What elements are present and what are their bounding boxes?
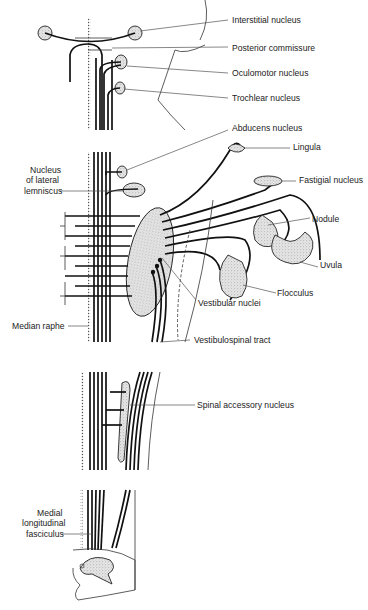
lower-cord-section: Medial longitudinal fasciculus — [22, 490, 135, 600]
label-nucleus-lateral-lemniscus-3: lemniscus — [24, 186, 62, 196]
median-raphe-top — [88, 18, 91, 130]
upper-cord-section: Spinal accessory nucleus — [81, 372, 294, 470]
label-nodule: Nodule — [312, 214, 339, 224]
label-posterior-commissure: Posterior commissure — [232, 43, 315, 53]
mlf-diagram: Interstitial nucleus Posterior commissur… — [0, 0, 368, 610]
label-flocculus: Flocculus — [277, 288, 313, 298]
vestibular-nuclei — [119, 204, 181, 320]
label-lingula: Lingula — [293, 142, 321, 152]
label-abducens-nucleus: Abducens nucleus — [232, 123, 302, 133]
lingula — [228, 144, 245, 152]
label-nucleus-lateral-lemniscus-1: Nucleus — [30, 165, 61, 175]
spinal-accessory-nucleus — [118, 382, 130, 463]
label-spinal-accessory-nucleus: Spinal accessory nucleus — [197, 400, 294, 410]
pons-medulla-section: Abducens nucleus Lingula Fastigial nucle… — [12, 123, 363, 345]
label-uvula: Uvula — [320, 260, 342, 270]
flocculus — [220, 255, 247, 298]
label-vestibular-nuclei: Vestibular nuclei — [198, 298, 261, 308]
label-fastigial-nucleus: Fastigial nucleus — [299, 175, 363, 185]
label-vestibulospinal-tract: Vestibulospinal tract — [194, 335, 271, 345]
label-mlf-2: longitudinal — [22, 518, 66, 528]
label-mlf-1: Medial — [37, 508, 62, 518]
label-nucleus-lateral-lemniscus-2: of lateral — [26, 175, 59, 185]
midbrain-section: Interstitial nucleus Posterior commissur… — [38, 0, 315, 130]
label-median-raphe: Median raphe — [12, 321, 65, 331]
label-trochlear-nucleus: Trochlear nucleus — [232, 93, 300, 103]
label-oculomotor-nucleus: Oculomotor nucleus — [232, 68, 308, 78]
label-interstitial-nucleus: Interstitial nucleus — [232, 15, 301, 25]
median-raphe-middle — [88, 152, 91, 342]
fastigial-nucleus — [254, 176, 282, 186]
label-mlf-3: fasciculus — [26, 529, 64, 539]
uvula — [272, 232, 313, 264]
